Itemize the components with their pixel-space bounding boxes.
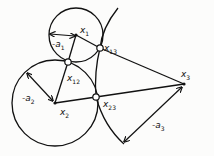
label-a1: -a1 bbox=[52, 40, 65, 51]
point-x3-dot bbox=[182, 82, 185, 85]
label-x23: x23 bbox=[103, 100, 116, 111]
c3-arc bbox=[96, 8, 125, 144]
diagram-canvas: x1x2x3x12x13x23-a1-a2-a3 bbox=[0, 0, 214, 156]
segment-x1-x13 bbox=[76, 35, 100, 48]
segment-x12-x1 bbox=[68, 35, 76, 62]
label-x1: x1 bbox=[80, 26, 89, 37]
segment-x2-x23 bbox=[55, 97, 96, 103]
point-x1-dot bbox=[74, 33, 77, 36]
segments-group bbox=[55, 35, 184, 103]
point-x2-dot bbox=[53, 101, 56, 104]
label-x3: x3 bbox=[181, 70, 190, 81]
point-x13-marker bbox=[97, 45, 103, 51]
label-a2: -a2 bbox=[22, 94, 35, 105]
label-x13: x13 bbox=[104, 44, 117, 55]
segment-x23-x3 bbox=[96, 84, 184, 97]
point-x23-marker bbox=[93, 94, 99, 100]
circles-group bbox=[12, 8, 103, 146]
label-a3: -a3 bbox=[152, 121, 165, 132]
label-x2: x2 bbox=[60, 108, 69, 119]
arrow-a3-icon bbox=[124, 87, 182, 142]
point-x12-marker bbox=[65, 59, 71, 65]
label-x12: x12 bbox=[67, 74, 80, 85]
arrow-a1-icon bbox=[50, 34, 75, 36]
arcs-group bbox=[96, 8, 125, 144]
